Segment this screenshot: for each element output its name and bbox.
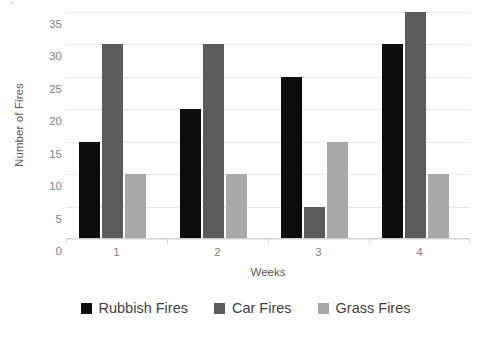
x-axis-title: Weeks	[66, 266, 470, 278]
y-tick-label: 0	[56, 245, 62, 257]
x-tick-label: 3	[315, 246, 321, 258]
x-tick-label: 1	[113, 246, 119, 258]
bar	[428, 174, 449, 239]
x-axis-line	[66, 238, 470, 239]
bar	[203, 44, 224, 239]
y-axis-tick-labels: 05101520253035	[30, 12, 62, 239]
bar	[102, 44, 123, 239]
bar	[304, 207, 325, 239]
x-axis-tick	[66, 239, 67, 244]
y-tick-label: 10	[49, 180, 62, 192]
y-tick-label: 35	[49, 18, 62, 30]
chart-legend: Rubbish FiresCar FiresGrass Fires	[0, 300, 491, 316]
bar	[327, 142, 348, 239]
bar	[382, 44, 403, 239]
legend-swatch-icon	[81, 303, 92, 314]
bar	[79, 142, 100, 239]
legend-item[interactable]: Rubbish Fires	[81, 300, 188, 316]
legend-swatch-icon	[214, 303, 225, 314]
legend-label: Grass Fires	[336, 300, 411, 316]
bars	[66, 12, 470, 239]
y-tick-label: 15	[49, 148, 62, 160]
plot-area	[66, 12, 470, 239]
x-tick-label: 2	[214, 246, 220, 258]
y-tick-label: 20	[49, 115, 62, 127]
legend-item[interactable]: Grass Fires	[318, 300, 411, 316]
x-axis-tick	[469, 239, 470, 244]
y-tick-label: 5	[56, 213, 62, 225]
y-tick-label: 30	[49, 50, 62, 62]
legend-label: Car Fires	[232, 300, 292, 316]
legend-swatch-icon	[318, 303, 329, 314]
y-tick-label: 25	[49, 83, 62, 95]
bar	[180, 109, 201, 239]
y-axis-title-label: Number of Fires	[13, 83, 25, 167]
legend-item[interactable]: Car Fires	[214, 300, 292, 316]
bar	[125, 174, 146, 239]
x-tick-label: 4	[416, 246, 422, 258]
bar	[226, 174, 247, 239]
x-axis-tick	[268, 239, 269, 244]
x-axis-tick	[167, 239, 168, 244]
bar	[281, 77, 302, 239]
bar	[405, 12, 426, 239]
x-axis-tick	[369, 239, 370, 244]
x-axis-tick-labels: 1234	[66, 246, 470, 264]
legend-label: Rubbish Fires	[99, 300, 188, 316]
bar-chart: Number of Fires 05101520253035 1234 Week…	[0, 0, 491, 337]
